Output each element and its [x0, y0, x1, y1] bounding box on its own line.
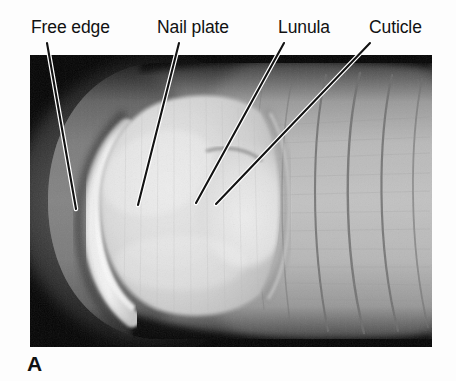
annotation-label-nail-plate: Nail plate [157, 16, 229, 38]
annotation-label-cuticle: Cuticle [369, 16, 422, 38]
fingertip-photo-svg [30, 55, 432, 347]
annotation-label-row: Free edge Nail plate Lunula Cuticle [0, 16, 456, 44]
photo-content [30, 55, 432, 347]
fingertip-photograph [30, 55, 432, 347]
annotation-label-free-edge: Free edge [31, 16, 110, 38]
annotation-label-lunula: Lunula [278, 16, 330, 38]
panel-letter-a: A [27, 352, 42, 376]
photo-grain [30, 55, 432, 347]
figure-panel-a: Free edge Nail plate Lunula Cuticle [0, 0, 456, 381]
